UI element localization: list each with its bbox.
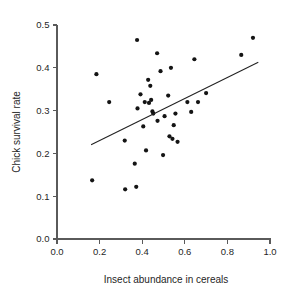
data-point (189, 110, 193, 114)
data-point (158, 69, 162, 73)
data-point (149, 98, 153, 102)
x-tick-label: 1.0 (263, 246, 276, 257)
y-tick-label: 0.3 (36, 105, 49, 116)
data-point (146, 78, 150, 82)
data-point (138, 92, 142, 96)
data-point (148, 84, 152, 88)
data-point (141, 124, 145, 128)
y-tick-label: 0.1 (36, 191, 49, 202)
y-axis-ticks: 0.00.10.20.30.40.5 (36, 19, 57, 244)
y-tick-label: 0.4 (36, 62, 49, 73)
y-axis-title: Chick survival rate (11, 91, 22, 173)
data-points-group (90, 36, 255, 192)
data-point (239, 53, 243, 57)
data-point (170, 137, 174, 141)
y-tick-label: 0.5 (36, 19, 49, 30)
data-point (185, 100, 189, 104)
data-point (155, 119, 159, 123)
x-tick-label: 0.2 (93, 246, 106, 257)
x-tick-label: 0.4 (136, 246, 149, 257)
data-point (107, 100, 111, 104)
data-point (94, 72, 98, 76)
x-tick-label: 0.0 (50, 246, 63, 257)
data-point (123, 187, 127, 191)
data-point (162, 114, 166, 118)
data-point (172, 123, 176, 127)
x-tick-label: 0.6 (178, 246, 191, 257)
data-point (192, 57, 196, 61)
scatter-chart-figure: 0.00.10.20.30.40.5 0.00.20.40.60.81.0 In… (0, 0, 292, 291)
data-point (90, 178, 94, 182)
data-point (135, 106, 139, 110)
data-point (196, 100, 200, 104)
data-point (133, 162, 137, 166)
regression-trend-line (91, 62, 258, 145)
data-point (173, 111, 177, 115)
x-axis-title: Insect abundance in cereals (104, 274, 229, 285)
data-point (123, 138, 127, 142)
data-point (144, 148, 148, 152)
x-tick-label: 0.8 (221, 246, 234, 257)
plot-canvas: 0.00.10.20.30.40.5 0.00.20.40.60.81.0 In… (0, 0, 292, 291)
data-point (251, 36, 255, 40)
data-point (135, 38, 139, 42)
data-point (134, 185, 138, 189)
y-tick-label: 0.2 (36, 148, 49, 159)
data-point (161, 153, 165, 157)
x-axis-ticks: 0.00.20.40.60.81.0 (50, 239, 276, 257)
data-point (155, 51, 159, 55)
data-point (204, 91, 208, 95)
data-point (175, 140, 179, 144)
data-point (166, 94, 170, 98)
y-tick-label: 0.0 (36, 233, 49, 244)
data-point (143, 100, 147, 104)
data-point (169, 66, 173, 70)
